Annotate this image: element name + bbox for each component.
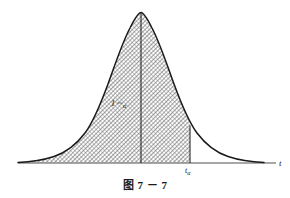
- t-distribution-plot: 1－α tα t: [0, 0, 290, 198]
- x-axis-name-label: t: [279, 158, 282, 168]
- figure-caption: 图 7 － 7: [0, 176, 290, 192]
- area-label-base: 1－: [111, 99, 123, 108]
- critical-value-tick-label: tα: [185, 166, 191, 176]
- figure-container: 1－α tα t 图 7 － 7: [0, 0, 290, 198]
